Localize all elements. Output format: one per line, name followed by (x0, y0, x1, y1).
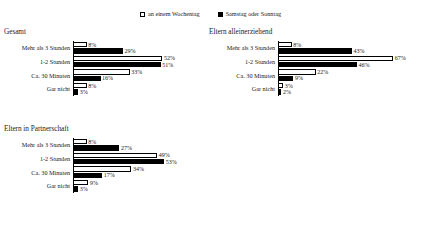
bar-value-label: 8% (292, 42, 302, 48)
bar-pair: 49%53% (73, 152, 204, 166)
bar-value-label: 51% (161, 62, 174, 68)
bar-value-label: 9% (293, 75, 303, 81)
bar-group: Ca. 30 Minuten22%9% (209, 68, 419, 82)
panel-plot: Mehr als 3 Stunden8%27%1-2 Stunden49%53%… (4, 138, 204, 193)
bar-value-label: 34% (131, 166, 144, 172)
category-label: Ca. 30 Minuten (4, 169, 73, 176)
chart-panel-gesamt: Gesamt Mehr als 3 Stunden8%29%1-2 Stunde… (4, 28, 204, 96)
legend-entry-weekday: an einem Wochentag (140, 10, 200, 18)
legend-label-weekday: an einem Wochentag (148, 10, 200, 18)
category-label: 1-2 Stunden (4, 58, 73, 65)
bar-row: 22% (278, 69, 419, 74)
bar-pair: 34%17% (73, 165, 204, 179)
bar-row: 29% (73, 48, 204, 53)
bar-value-label: 8% (87, 83, 97, 89)
panel-title: Eltern in Partnerschaft (4, 125, 204, 134)
bar-row: 51% (73, 62, 204, 67)
bar-row: 46% (278, 62, 419, 67)
panel-title: Gesamt (4, 28, 204, 37)
bar-value-label: 16% (101, 75, 114, 81)
bar-weekend (73, 173, 102, 178)
bar-pair: 67%46% (278, 55, 419, 69)
category-label: Mehr als 3 Stunden (4, 141, 73, 148)
bar-group: Ca. 30 Minuten33%16% (4, 68, 204, 82)
bar-value-label: 53% (164, 159, 177, 165)
bar-weekday (278, 69, 316, 74)
bar-pair: 3%2% (278, 82, 419, 96)
bar-weekday (73, 69, 130, 74)
bar-row: 9% (73, 180, 204, 185)
category-label: Mehr als 3 Stunden (4, 44, 73, 51)
bar-value-label: 22% (316, 69, 329, 75)
bar-group: Ca. 30 Minuten34%17% (4, 165, 204, 179)
bar-row: 49% (73, 153, 204, 158)
category-label: Gar nicht (4, 182, 73, 189)
panel-title: Eltern alleinerziehend (209, 28, 419, 37)
bar-pair: 22%9% (278, 68, 419, 82)
bar-row: 67% (278, 56, 419, 61)
bar-group: 1-2 Stunden67%46% (209, 55, 419, 69)
legend-entry-weekend: Samstag oder Sonntag (218, 10, 281, 18)
bar-value-label: 8% (87, 139, 97, 145)
bar-value-label: 8% (87, 42, 97, 48)
bar-row: 9% (278, 76, 419, 81)
bar-row: 3% (73, 89, 204, 94)
bar-row: 8% (73, 139, 204, 144)
bar-row: 43% (278, 48, 419, 53)
chart-panel-alleinerziehend: Eltern alleinerziehend Mehr als 3 Stunde… (209, 28, 419, 96)
bar-row: 34% (73, 166, 204, 171)
bar-group: 1-2 Stunden49%53% (4, 152, 204, 166)
bar-pair: 8%3% (73, 82, 204, 96)
bar-weekday (73, 166, 131, 171)
bar-weekday (73, 180, 88, 185)
bar-pair: 52%51% (73, 55, 204, 69)
category-label: Ca. 30 Minuten (4, 72, 73, 79)
bar-row: 27% (73, 145, 204, 150)
category-label: Gar nicht (209, 85, 278, 92)
panel-plot: Mehr als 3 Stunden8%43%1-2 Stunden67%46%… (209, 41, 419, 96)
bar-row: 2% (278, 89, 419, 94)
bar-group: Gar nicht9%3% (4, 179, 204, 193)
filled-square-icon (218, 12, 223, 17)
bar-value-label: 29% (123, 48, 136, 54)
bar-row: 33% (73, 69, 204, 74)
bar-group: 1-2 Stunden52%51% (4, 55, 204, 69)
bar-weekday (73, 83, 87, 88)
bar-weekday (73, 56, 162, 61)
bar-value-label: 33% (130, 69, 143, 75)
chart-legend: an einem Wochentag Samstag oder Sonntag (0, 10, 421, 18)
bar-row: 3% (278, 83, 419, 88)
bar-group: Mehr als 3 Stunden8%29% (4, 41, 204, 55)
bar-value-label: 52% (162, 55, 175, 61)
bar-row: 3% (73, 186, 204, 191)
legend-label-weekend: Samstag oder Sonntag (226, 10, 281, 18)
bar-pair: 8%29% (73, 41, 204, 55)
bar-group: Gar nicht3%2% (209, 82, 419, 96)
bar-weekday (73, 153, 157, 158)
bar-value-label: 46% (357, 62, 370, 68)
bar-value-label: 17% (102, 172, 115, 178)
category-label: 1-2 Stunden (209, 58, 278, 65)
bar-group: Mehr als 3 Stunden8%27% (4, 138, 204, 152)
bar-weekend (278, 48, 352, 53)
bar-weekday (73, 42, 87, 47)
chart-panel-partnerschaft: Eltern in Partnerschaft Mehr als 3 Stund… (4, 125, 204, 193)
bar-weekend (73, 159, 164, 164)
bar-row: 17% (73, 173, 204, 178)
bar-value-label: 3% (78, 186, 88, 192)
bar-value-label: 43% (352, 48, 365, 54)
bar-weekday (73, 139, 87, 144)
bar-weekend (73, 48, 123, 53)
bar-row: 53% (73, 159, 204, 164)
bar-pair: 33%16% (73, 68, 204, 82)
bar-pair: 8%27% (73, 138, 204, 152)
bar-group: Mehr als 3 Stunden8%43% (209, 41, 419, 55)
bar-pair: 8%43% (278, 41, 419, 55)
category-label: Gar nicht (4, 85, 73, 92)
bar-pair: 9%3% (73, 179, 204, 193)
panel-plot: Mehr als 3 Stunden8%29%1-2 Stunden52%51%… (4, 41, 204, 96)
bar-row: 16% (73, 76, 204, 81)
bar-weekend (73, 145, 119, 150)
bar-value-label: 2% (281, 89, 291, 95)
bar-value-label: 3% (78, 89, 88, 95)
